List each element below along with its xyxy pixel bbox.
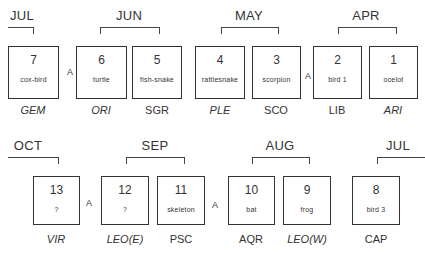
station-number: 5 bbox=[133, 53, 181, 67]
sign-label-ori: ORI bbox=[91, 104, 111, 116]
month-label-sep: SEP bbox=[142, 138, 169, 153]
station-name: scorpion bbox=[253, 76, 300, 83]
sign-label-cap: CAP bbox=[365, 233, 388, 245]
month-label-jun: JUN bbox=[116, 8, 142, 23]
station-name: ? bbox=[102, 206, 148, 213]
bracket-apr bbox=[338, 27, 397, 34]
station-number: 4 bbox=[196, 53, 244, 67]
station-box-11: 11 skeleton bbox=[157, 176, 205, 225]
station-box-8: 8 bird 3 bbox=[352, 176, 400, 225]
station-number: 13 bbox=[34, 183, 79, 197]
station-number: 3 bbox=[253, 53, 300, 67]
station-box-12: 12 ? bbox=[101, 176, 149, 225]
station-name: rattlesnake bbox=[196, 76, 244, 83]
station-number: 10 bbox=[229, 183, 274, 197]
month-label-aug: AUG bbox=[265, 138, 294, 153]
station-name: ocelot bbox=[370, 76, 417, 83]
month-label-oct: OCT bbox=[14, 138, 42, 153]
month-label-jul-top: JUL bbox=[10, 8, 34, 23]
a-marker: A bbox=[86, 198, 92, 208]
bracket-jul-bottom bbox=[377, 157, 425, 164]
station-box-13: 13 ? bbox=[33, 176, 80, 225]
station-number: 2 bbox=[314, 53, 361, 67]
station-number: 11 bbox=[158, 183, 204, 197]
station-number: 7 bbox=[9, 53, 58, 67]
station-name: frog bbox=[284, 206, 330, 213]
station-name: bat bbox=[229, 206, 274, 213]
sign-label-sgr: SGR bbox=[145, 104, 169, 116]
station-box-2: 2 bird 1 bbox=[313, 46, 362, 99]
station-number: 9 bbox=[284, 183, 330, 197]
bracket-jun bbox=[100, 27, 160, 34]
a-marker: A bbox=[212, 200, 218, 210]
sign-label-lib: LIB bbox=[329, 104, 346, 116]
station-name: ? bbox=[34, 206, 79, 213]
sign-label-ari: ARI bbox=[384, 104, 402, 116]
sign-label-vir: VIR bbox=[47, 233, 65, 245]
station-box-7: 7 cox-bird bbox=[8, 46, 59, 99]
bracket-aug bbox=[252, 157, 310, 164]
sign-label-ple: PLE bbox=[210, 104, 231, 116]
month-label-jul-bottom: JUL bbox=[386, 138, 410, 153]
station-name: cox-bird bbox=[9, 76, 58, 83]
sign-label-leo-e: LEO(E) bbox=[107, 233, 144, 245]
sign-label-leo-w: LEO(W) bbox=[287, 233, 327, 245]
sign-label-psc: PSC bbox=[170, 233, 193, 245]
station-number: 8 bbox=[353, 183, 399, 197]
a-marker: A bbox=[67, 67, 73, 77]
sign-label-gem: GEM bbox=[20, 104, 45, 116]
a-marker: A bbox=[305, 71, 311, 81]
month-label-apr: APR bbox=[352, 8, 380, 23]
bracket-jul-top bbox=[8, 27, 34, 34]
station-box-6: 6 turtle bbox=[76, 46, 127, 99]
bracket-sep bbox=[126, 157, 185, 164]
station-name: skeleton bbox=[158, 206, 204, 213]
station-box-5: 5 fish-snake bbox=[132, 46, 182, 99]
station-name: turtle bbox=[77, 76, 126, 83]
station-number: 12 bbox=[102, 183, 148, 197]
sign-label-sco: SCO bbox=[264, 104, 288, 116]
month-label-may: MAY bbox=[235, 8, 263, 23]
station-box-1: 1 ocelot bbox=[369, 46, 418, 99]
station-name: fish-snake bbox=[133, 76, 181, 83]
bracket-may bbox=[221, 27, 279, 34]
station-box-9: 9 frog bbox=[283, 176, 331, 225]
station-number: 6 bbox=[77, 53, 126, 67]
sign-label-aqr: AQR bbox=[239, 233, 263, 245]
bracket-oct bbox=[8, 157, 59, 164]
station-name: bird 1 bbox=[314, 76, 361, 83]
station-box-10: 10 bat bbox=[228, 176, 275, 225]
station-name: bird 3 bbox=[353, 206, 399, 213]
station-box-4: 4 rattlesnake bbox=[195, 46, 245, 99]
station-number: 1 bbox=[370, 53, 417, 67]
station-box-3: 3 scorpion bbox=[252, 46, 301, 99]
